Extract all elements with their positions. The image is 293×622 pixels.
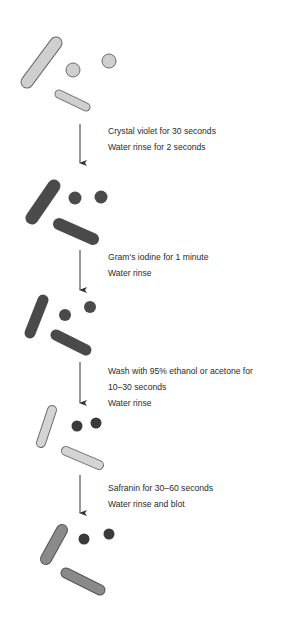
step-3-line-3: Water rinse: [108, 395, 253, 411]
step-1-line-1: Crystal violet for 30 seconds: [108, 123, 216, 139]
coccus-bacterium: [79, 534, 90, 545]
coccus-bacterium: [95, 191, 108, 204]
coccus-bacterium: [59, 309, 71, 321]
gram-stain-diagram: [0, 0, 293, 622]
rod-bacterium: [59, 224, 93, 239]
stage-iodine: [30, 300, 96, 350]
step-3-line-1: Wash with 95% ethanol or acetone for: [108, 363, 253, 379]
step-2-instructions: Gram's iodine for 1 minute Water rinse: [108, 249, 209, 281]
step-2-line-2: Water rinse: [108, 265, 209, 281]
step-4-instructions: Safranin for 30–60 seconds Water rinse a…: [108, 480, 213, 512]
coccus-bacterium: [91, 418, 102, 429]
rod-bacterium: [46, 530, 62, 559]
step-3-line-2: 10–30 seconds: [108, 379, 253, 395]
coccus-bacterium: [69, 192, 82, 205]
step-1-line-2: Water rinse for 2 seconds: [108, 139, 216, 155]
stage-unstained: [27, 43, 116, 107]
stage-decolorized: [41, 410, 102, 465]
rod-bacterium: [41, 410, 52, 443]
coccus-bacterium: [102, 54, 116, 68]
coccus-bacterium: [72, 421, 83, 432]
step-1-instructions: Crystal violet for 30 seconds Water rins…: [108, 123, 216, 155]
stage-crystal-violet: [32, 186, 108, 239]
rod-bacterium: [27, 43, 56, 82]
rod-bacterium: [32, 186, 54, 218]
step-2-line-1: Gram's iodine for 1 minute: [108, 249, 209, 265]
rod-bacterium: [30, 300, 43, 333]
rod-bacterium: [56, 335, 86, 350]
coccus-bacterium: [104, 529, 115, 540]
step-4-line-1: Safranin for 30–60 seconds: [108, 480, 213, 496]
step-4-line-2: Water rinse and blot: [108, 496, 213, 512]
stage-safranin: [46, 529, 115, 591]
coccus-bacterium: [66, 63, 80, 77]
coccus-bacterium: [84, 301, 96, 313]
step-3-instructions: Wash with 95% ethanol or acetone for 10–…: [108, 363, 253, 411]
